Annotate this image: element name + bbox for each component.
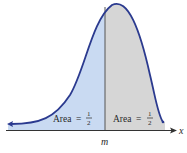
svg-text:=: = [76,114,81,124]
svg-text:1: 1 [87,110,91,118]
svg-text:2: 2 [148,119,152,127]
svg-text:Area: Area [113,114,132,124]
median-diagram: x m Area = 1 2 Area = 1 2 [0,0,187,153]
svg-text:Area: Area [53,114,72,124]
svg-text:1: 1 [148,110,152,118]
curve-right-end [162,121,165,124]
svg-text:2: 2 [87,119,91,127]
median-label: m [101,136,108,147]
svg-text:=: = [136,114,141,124]
x-axis-label: x [178,125,184,136]
